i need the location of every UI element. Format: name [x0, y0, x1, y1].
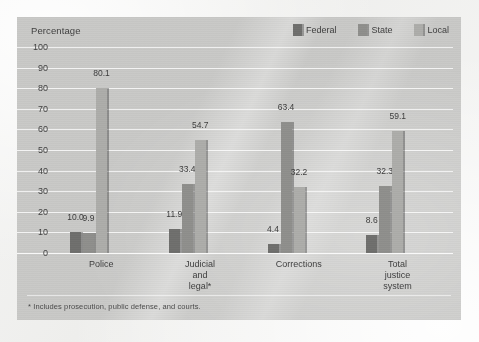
y-axis-tick-label: 40: [22, 166, 48, 176]
bars-container: 4.463.432.2: [256, 47, 355, 253]
y-axis-tick-label: 70: [22, 104, 48, 114]
bar-value-label: 59.1: [389, 111, 406, 121]
bar-slot: 8.6: [366, 47, 377, 253]
footnote-divider: [27, 295, 451, 296]
bar-local[interactable]: [294, 187, 305, 253]
bar-value-label: 4.4: [267, 224, 279, 234]
bar-groups: 10.09.980.1Police11.933.454.7Judicialand…: [58, 47, 453, 253]
y-axis-tick-label: 60: [22, 124, 48, 134]
bar-value-label: 11.9: [166, 209, 182, 219]
legend-swatch-icon-federal: [293, 24, 302, 36]
bar-value-label: 80.1: [93, 68, 110, 78]
bar-slot: 10.0: [70, 47, 81, 253]
bar-slot: 33.4: [182, 47, 193, 253]
x-axis-category-label: Police: [58, 259, 157, 270]
legend-entry-state: State: [358, 24, 392, 36]
bar-local[interactable]: [96, 88, 107, 253]
legend-label: Local: [427, 25, 449, 35]
bar-federal[interactable]: [366, 235, 377, 253]
bar-slot: 59.1: [392, 47, 403, 253]
y-axis-tick-label: 90: [22, 63, 48, 73]
x-axis-category-label: Corrections: [256, 259, 355, 270]
bar-value-label: 9.9: [83, 213, 95, 223]
category-label-line: system: [354, 281, 441, 292]
bar-slot: 63.4: [281, 47, 292, 253]
plot-area: 1009080706050403020100 10.09.980.1Police…: [58, 47, 453, 253]
bar-federal[interactable]: [70, 232, 81, 253]
bar-value-label: 10.0: [67, 212, 84, 222]
bars-container: 11.933.454.7: [157, 47, 256, 253]
bar-local[interactable]: [392, 131, 403, 253]
y-axis-tick-label: 0: [22, 248, 48, 258]
bar-slot: 80.1: [96, 47, 107, 253]
legend-swatch-icon-state: [358, 24, 367, 36]
bar-group: 10.09.980.1Police: [58, 47, 157, 253]
footnote: * Includes prosecution, public defense, …: [28, 302, 201, 311]
x-axis-category-label: Judicialandlegal*: [157, 259, 256, 292]
category-label-line: Police: [58, 259, 145, 270]
gridline: [17, 253, 453, 254]
legend-swatch-icon-local: [414, 24, 423, 36]
legend-entry-federal: Federal: [293, 24, 337, 36]
category-label-line: and: [157, 270, 244, 281]
y-axis-title: Percentage: [31, 25, 81, 36]
x-axis-category-label: Totaljusticesystem: [354, 259, 453, 292]
bar-value-label: 63.4: [278, 102, 295, 112]
y-axis-tick-label: 30: [22, 186, 48, 196]
category-label-line: legal*: [157, 281, 244, 292]
bar-local[interactable]: [195, 140, 206, 253]
y-axis-tick-label: 100: [22, 42, 48, 52]
y-axis-tick-label: 50: [22, 145, 48, 155]
bar-state[interactable]: [379, 186, 390, 253]
bar-value-label: 54.7: [192, 120, 209, 130]
bar-state[interactable]: [83, 233, 94, 253]
category-label-line: Total: [354, 259, 441, 270]
bar-value-label: 32.2: [291, 167, 308, 177]
bar-value-label: 32.3: [376, 166, 393, 176]
y-axis-tick-label: 20: [22, 207, 48, 217]
bar-federal[interactable]: [169, 229, 180, 254]
category-label-line: Judicial: [157, 259, 244, 270]
bar-group: 4.463.432.2Corrections: [256, 47, 355, 253]
legend-entry-local: Local: [414, 24, 449, 36]
bar-value-label: 33.4: [179, 164, 196, 174]
bar-state[interactable]: [281, 122, 292, 253]
category-label-line: Corrections: [256, 259, 343, 270]
bar-group: 11.933.454.7Judicialandlegal*: [157, 47, 256, 253]
y-axis-tick-label: 10: [22, 227, 48, 237]
legend-label: State: [371, 25, 392, 35]
bar-slot: 4.4: [268, 47, 279, 253]
legend-label: Federal: [306, 25, 337, 35]
bar-slot: 54.7: [195, 47, 206, 253]
bars-container: 8.632.359.1: [354, 47, 453, 253]
bar-slot: 32.2: [294, 47, 305, 253]
category-label-line: justice: [354, 270, 441, 281]
bar-group: 8.632.359.1Totaljusticesystem: [354, 47, 453, 253]
bar-state[interactable]: [182, 184, 193, 253]
chart-panel: Percentage FederalStateLocal 10090807060…: [17, 17, 461, 320]
bar-value-label: 8.6: [366, 215, 378, 225]
bar-slot: 32.3: [379, 47, 390, 253]
bars-container: 10.09.980.1: [58, 47, 157, 253]
bar-federal[interactable]: [268, 244, 279, 253]
bar-slot: 11.9: [169, 47, 180, 253]
chart-legend: FederalStateLocal: [293, 24, 449, 36]
y-axis-tick-label: 80: [22, 83, 48, 93]
